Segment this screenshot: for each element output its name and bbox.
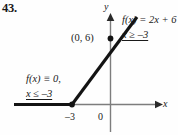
point-label-intercept: (0, 6) xyxy=(71,33,94,44)
tick-label-neg3: –3 xyxy=(65,112,75,122)
branch2-domain-label: x ≥ –3 xyxy=(122,30,148,41)
branch2-rule-label: f(x) = 2x + 6 xyxy=(122,15,176,26)
branch1-domain-label: x ≤ –3 xyxy=(26,89,52,100)
y-axis xyxy=(107,13,115,132)
piecewise-function-figure: 43. (0, 6) f(x) = 2x + 6 x ≥ –3 f(x) ≡ 0… xyxy=(0,0,178,135)
branch1-rule-label: f(x) ≡ 0, xyxy=(26,74,61,85)
tick-label-origin: 0 xyxy=(98,112,103,122)
axis-label-y: y xyxy=(104,2,108,12)
point-dot-intercept xyxy=(108,36,114,42)
problem-number: 43. xyxy=(2,2,17,15)
endpoint-dot-neg3 xyxy=(69,102,75,108)
axis-label-x: x xyxy=(163,99,167,109)
